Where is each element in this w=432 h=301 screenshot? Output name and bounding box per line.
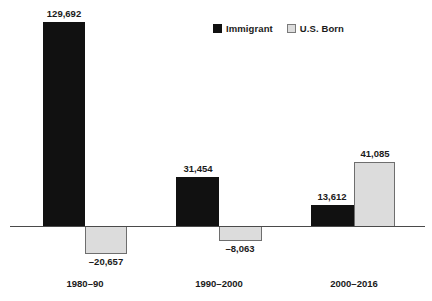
plot-area: 129,692 –20,657 1980–90 31,454 –8,063 19… (0, 0, 432, 301)
bar-immigrant-1980-90[interactable] (43, 22, 85, 227)
bar-us-born-2000-2016[interactable] (354, 162, 395, 227)
bar-value-us-born-2000-2016: 41,085 (335, 148, 415, 159)
bar-value-immigrant-1990-2000: 31,454 (158, 163, 238, 174)
zero-baseline (10, 226, 425, 227)
bar-value-us-born-1990-2000: –8,063 (200, 243, 280, 254)
bar-immigrant-2000-2016[interactable] (311, 205, 354, 227)
bar-us-born-1990-2000[interactable] (219, 226, 262, 241)
x-axis-label-1980-90: 1980–90 (45, 278, 125, 289)
bar-immigrant-1990-2000[interactable] (176, 177, 219, 227)
bar-value-immigrant-1980-90: 129,692 (24, 8, 104, 19)
bar-us-born-1980-90[interactable] (85, 226, 127, 254)
x-axis-label-1990-2000: 1990–2000 (179, 278, 259, 289)
bar-value-us-born-1980-90: –20,657 (66, 256, 146, 267)
x-axis-label-2000-2016: 2000–2016 (314, 278, 394, 289)
bar-chart: Immigrant U.S. Born 129,692 –20,657 1980… (0, 0, 432, 301)
